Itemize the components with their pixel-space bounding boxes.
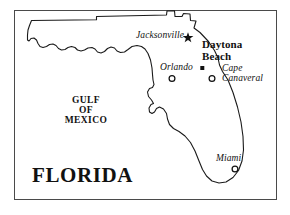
city-label-daytona-beach-line2: Beach: [202, 51, 242, 63]
city-label-jacksonville: Jacksonville: [136, 31, 184, 41]
city-label-daytona-beach-line1: Daytona: [202, 39, 242, 51]
city-marker-orlando: [169, 76, 175, 82]
city-marker-jacksonville: [183, 32, 194, 42]
city-label-cape-canaveral: Cape Canaveral: [222, 64, 263, 84]
city-label-cape-canaveral-line2: Canaveral: [222, 74, 263, 84]
map-title-florida: FLORIDA: [32, 164, 133, 186]
city-label-daytona-beach: Daytona Beach: [202, 39, 242, 62]
city-marker-miami: [232, 166, 238, 172]
water-label-gulf-line3: MEXICO: [48, 116, 124, 126]
city-marker-cape-canaveral: [209, 76, 215, 82]
florida-map-figure: Jacksonville Daytona Beach Orlando Cape …: [0, 0, 290, 215]
city-marker-daytona-beach: [200, 66, 204, 70]
city-label-miami: Miami: [216, 154, 241, 164]
water-label-gulf-of-mexico: GULF OF MEXICO: [48, 96, 124, 126]
city-label-orlando: Orlando: [160, 63, 193, 73]
